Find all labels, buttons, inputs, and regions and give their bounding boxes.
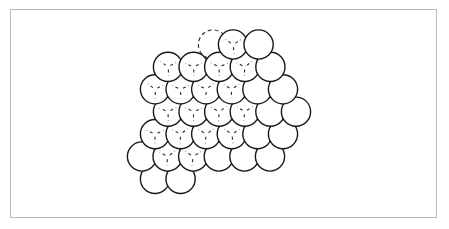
sphere [153, 52, 182, 81]
sphere [218, 30, 247, 59]
sphere-outline [244, 30, 273, 59]
sphere-outline [179, 52, 208, 81]
sphere [179, 52, 208, 81]
sphere-outline [153, 52, 182, 81]
sphere [244, 30, 273, 59]
figure-root: A hexagonal close-packed layer of equal … [0, 0, 449, 229]
sphere-outline [218, 30, 247, 59]
close-packed-sphere-diagram [0, 0, 449, 229]
